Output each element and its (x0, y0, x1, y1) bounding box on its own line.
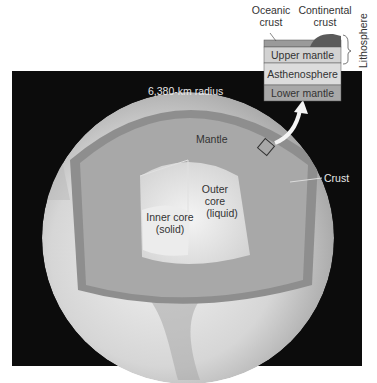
outer-core-line-1: Outer (190, 183, 240, 195)
mantle-label: Mantle (196, 133, 228, 145)
inner-core-line-2: (solid) (140, 223, 200, 235)
upper-mantle-label: Upper mantle (264, 49, 341, 61)
radius-label: 6,380-km radius (148, 85, 223, 97)
continental-crust-label: Continental crust (290, 4, 360, 28)
crust-label: Crust (324, 172, 349, 184)
inner-core-label: Inner core (solid) (140, 211, 200, 235)
inset-layer-labels: Upper mantle Asthenosphere Lower mantle (264, 47, 341, 101)
continental-crust-line-1: Continental (290, 4, 360, 16)
inner-core-line-1: Inner core (140, 211, 200, 223)
continental-crust-line-2: crust (290, 16, 360, 28)
lower-mantle-label: Lower mantle (264, 87, 341, 99)
earth-interior-diagram: Oceanic crust Continental crust Upper ma… (0, 0, 377, 383)
asthenosphere-label: Asthenosphere (264, 68, 341, 80)
lithosphere-label: Lithosphere (357, 13, 369, 68)
outer-core-line-2: core (190, 195, 240, 207)
